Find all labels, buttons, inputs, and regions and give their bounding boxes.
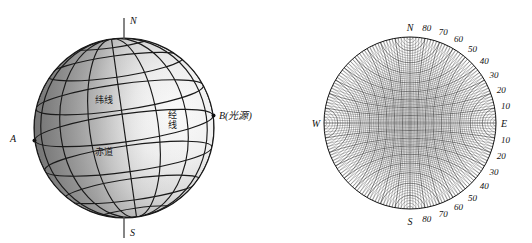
stereonet-degree-tick: 30 [489, 70, 500, 80]
globe-south-label: S [130, 227, 135, 238]
globe-point-b-label: B(光源) [219, 110, 252, 122]
point-a-marker [33, 139, 37, 143]
stereonet-degree-tick: 50 [468, 44, 478, 54]
globe-meridian-label: 经线 [167, 109, 177, 130]
stereonet-degree-tick: 10 [501, 135, 511, 145]
globe-point-a-label: A [9, 133, 17, 144]
stereonet-degree-tick: 70 [439, 27, 449, 37]
stereonet-degree-tick: 60 [454, 202, 464, 212]
globe-parallel-label: 纬线 [95, 94, 113, 105]
figure-page: N S A B(光源) 纬线 赤道 经线 N [0, 0, 532, 243]
stereonet-east-label: E [500, 118, 507, 129]
stereonet-degree-tick: 80 [422, 214, 432, 224]
stereonet-degree-tick: 30 [489, 167, 500, 177]
stereonet-degree-tick: 20 [497, 85, 507, 95]
stereonet-degree-tick: 40 [480, 181, 490, 191]
stereonet-degree-tick: 70 [439, 209, 449, 219]
point-b-marker [212, 114, 216, 118]
stereonet-degree-tick: 10 [501, 101, 511, 111]
stereonet-degree-tick: 40 [480, 56, 490, 66]
stereonet-degree-tick: 50 [468, 193, 478, 203]
stereonet-north-label: N [406, 22, 415, 33]
stereonet-degree-tick: 80 [422, 23, 432, 33]
globe-north-label: N [129, 15, 138, 26]
stereonet-degree-tick: 60 [454, 34, 464, 44]
stereonet-degree-tick: 20 [497, 151, 507, 161]
globe-equator-label: 赤道 [95, 146, 113, 157]
panel-globe: N S A B(光源) 纬线 赤道 经线 [0, 0, 266, 243]
stereonet-west-label: W [312, 118, 322, 129]
panel-stereonet: N S E W 50403020108070601020304050807060 [266, 0, 532, 243]
stereonet-south-label: S [408, 216, 413, 227]
